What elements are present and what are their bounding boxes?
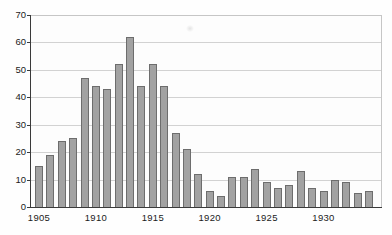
bar-1912 [115, 64, 123, 207]
y-tick-label: 30 [0, 120, 26, 130]
scan-artifact [185, 24, 195, 33]
bar-1929 [308, 188, 316, 207]
y-axis-line [30, 15, 31, 208]
bar-1919 [194, 174, 202, 207]
bar-1931 [331, 180, 339, 207]
y-tick-label: 20 [0, 147, 26, 157]
x-tick-label: 1920 [193, 212, 227, 224]
x-axis-line [30, 207, 382, 208]
x-tick-label: 1925 [250, 212, 284, 224]
x-tick-label: 1930 [307, 212, 341, 224]
y-tick-label: 40 [0, 92, 26, 102]
y-tick-mark [27, 152, 30, 153]
bar-1932 [342, 182, 350, 207]
bar-1909 [81, 78, 89, 207]
y-tick-label: 60 [0, 37, 26, 47]
x-tick-label: 1910 [79, 212, 113, 224]
bar-1906 [46, 155, 54, 207]
y-tick-mark [27, 15, 30, 16]
y-tick-mark [27, 125, 30, 126]
bar-1913 [126, 37, 134, 207]
bar-1926 [274, 188, 282, 207]
y-tick-mark [27, 70, 30, 71]
bar-1923 [240, 177, 248, 207]
bar-1907 [58, 141, 66, 207]
y-tick-label: 0 [0, 202, 26, 212]
plot-border-top [30, 15, 381, 16]
y-tick-label: 10 [0, 175, 26, 185]
bar-1914 [137, 86, 145, 207]
bar-1934 [365, 191, 373, 207]
bar-1922 [228, 177, 236, 207]
gridline [31, 42, 381, 43]
bar-1924 [251, 169, 259, 207]
bar-1918 [183, 149, 191, 207]
bar-1917 [172, 133, 180, 207]
gridline [31, 70, 381, 71]
bar-1933 [354, 193, 362, 207]
bar-1928 [297, 171, 305, 207]
bar-1921 [217, 196, 225, 207]
y-tick-mark [27, 42, 30, 43]
y-tick-mark [27, 97, 30, 98]
x-tick-label: 1915 [136, 212, 170, 224]
bar-1910 [92, 86, 100, 207]
y-tick-mark [27, 207, 30, 208]
bar-1911 [103, 89, 111, 207]
bar-1925 [263, 182, 271, 207]
y-tick-label: 70 [0, 10, 26, 20]
y-tick-label: 50 [0, 65, 26, 75]
bar-1905 [35, 166, 43, 207]
bar-chart-figure: 010203040506070 190519101915192019251930 [0, 0, 392, 235]
y-tick-mark [27, 180, 30, 181]
bar-1916 [160, 86, 168, 207]
bar-1915 [149, 64, 157, 207]
plot-border-right [381, 15, 382, 207]
bar-1920 [206, 191, 214, 207]
bar-1908 [69, 138, 77, 207]
bar-1930 [320, 191, 328, 207]
bar-1927 [285, 185, 293, 207]
x-tick-label: 1905 [22, 212, 56, 224]
